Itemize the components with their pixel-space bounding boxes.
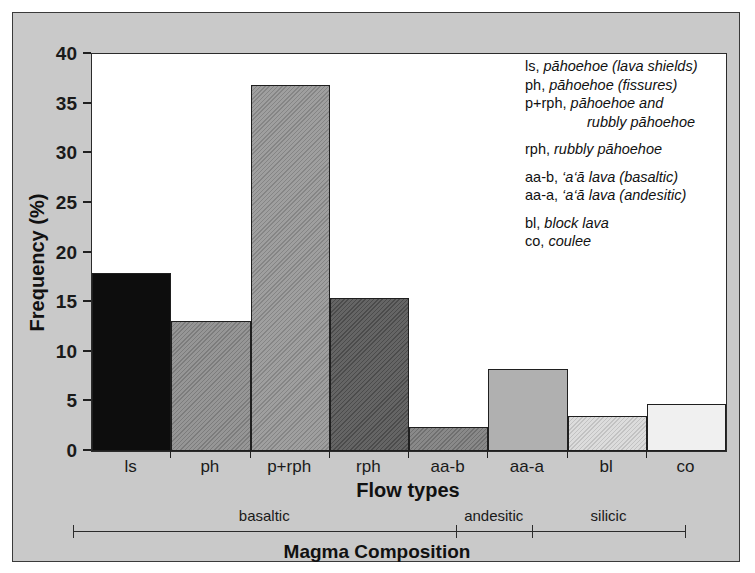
legend-description: pāhoehoe (fissures)	[549, 77, 677, 93]
y-tick-mark-0	[83, 449, 91, 451]
figure-root: Frequency (%) 0510152025303540 ls, pāhoe…	[0, 0, 755, 573]
legend-entry-rph: rph, rubbly pāhoehoe	[525, 140, 721, 159]
y-tick-mark-25	[83, 201, 91, 203]
bar-ph	[171, 321, 250, 451]
bar-aa-a	[488, 369, 567, 451]
magma-bracket-tick-2	[532, 525, 533, 538]
magma-bracket-line	[73, 531, 685, 532]
legend-code: rph,	[525, 141, 550, 157]
y-tick-label-20: 20	[56, 242, 77, 261]
legend-description: coulee	[548, 233, 591, 249]
legend-code: co,	[525, 233, 544, 249]
y-tick-label-15: 15	[56, 292, 77, 311]
y-tick-label-35: 35	[56, 93, 77, 112]
magma-bracket-tick-0	[73, 525, 74, 538]
y-tick-mark-40	[83, 52, 91, 54]
y-axis-title: Frequency (%)	[26, 163, 49, 363]
y-tick-label-10: 10	[56, 341, 77, 360]
x-tick-mark-p+rph	[250, 451, 251, 458]
legend-entry-p+rph: p+rph, pāhoehoe and	[525, 94, 721, 113]
y-tick-mark-5	[83, 399, 91, 401]
bar-rph	[330, 298, 409, 451]
legend-description: rubbly pāhoehoe	[554, 141, 662, 157]
legend-description: block lava	[544, 215, 608, 231]
y-axis: Frequency (%) 0510152025303540	[13, 13, 91, 483]
x-tick-mark-aa-b	[408, 451, 409, 458]
bar-aa-b	[409, 427, 488, 451]
y-tick-label-0: 0	[66, 441, 77, 460]
y-tick-mark-10	[83, 350, 91, 352]
legend-entry-aa-a: aa-a, ‘a‘ā lava (andesitic)	[525, 186, 721, 205]
magma-bracket-tick-3	[685, 525, 686, 538]
magma-composition-axis: Magma Composition basalticandesiticsilic…	[13, 505, 741, 565]
x-tick-label-ph: ph	[170, 457, 249, 477]
bar-ls	[92, 273, 171, 451]
x-tick-mark-rph	[329, 451, 330, 458]
legend-code: ph,	[525, 77, 545, 93]
x-tick-mark-co	[646, 451, 647, 458]
x-tick-mark-bl	[567, 451, 568, 458]
legend-code: aa-b,	[525, 169, 558, 185]
y-tick-mark-15	[83, 300, 91, 302]
magma-segment-silicic: silicic	[532, 507, 685, 524]
bar-bl	[568, 416, 647, 451]
legend: ls, pāhoehoe (lava shields)ph, pāhoehoe …	[525, 57, 721, 251]
legend-description: ‘a‘ā lava (andesitic)	[562, 187, 686, 203]
x-tick-label-aa-a: aa-a	[487, 457, 566, 477]
x-tick-label-bl: bl	[567, 457, 646, 477]
x-tick-label-ls: ls	[91, 457, 170, 477]
y-tick-label-5: 5	[66, 391, 77, 410]
legend-code: ls,	[525, 58, 540, 74]
figure-panel: Frequency (%) 0510152025303540 ls, pāhoe…	[12, 12, 740, 562]
legend-entry-ls: ls, pāhoehoe (lava shields)	[525, 57, 721, 76]
y-tick-label-40: 40	[56, 44, 77, 63]
legend-description: ‘a‘ā lava (basaltic)	[562, 169, 678, 185]
magma-composition-title: Magma Composition	[13, 541, 741, 563]
bar-co	[647, 404, 726, 451]
y-tick-label-30: 30	[56, 143, 77, 162]
x-axis-title: Flow types	[91, 479, 725, 502]
x-tick-mark-ph	[170, 451, 171, 458]
x-tick-label-aa-b: aa-b	[408, 457, 487, 477]
bar-p+rph	[251, 85, 330, 451]
y-tick-mark-35	[83, 102, 91, 104]
y-tick-label-25: 25	[56, 192, 77, 211]
x-tick-label-p+rph: p+rph	[250, 457, 329, 477]
legend-description: pāhoehoe (lava shields)	[544, 58, 698, 74]
x-tick-label-rph: rph	[329, 457, 408, 477]
y-tick-mark-20	[83, 251, 91, 253]
y-tick-mark-30	[83, 151, 91, 153]
legend-description-continued: rubbly pāhoehoe	[525, 113, 721, 132]
magma-bracket-tick-1	[456, 525, 457, 538]
legend-entry-bl: bl, block lava	[525, 214, 721, 233]
legend-code: p+rph,	[525, 95, 567, 111]
legend-code: bl,	[525, 215, 540, 231]
legend-entry-co: co, coulee	[525, 232, 721, 251]
legend-code: aa-a,	[525, 187, 558, 203]
legend-entry-aa-b: aa-b, ‘a‘ā lava (basaltic)	[525, 168, 721, 187]
legend-entry-ph: ph, pāhoehoe (fissures)	[525, 76, 721, 95]
legend-description: pāhoehoe and	[571, 95, 664, 111]
magma-segment-andesitic: andesitic	[456, 507, 533, 524]
magma-segment-basaltic: basaltic	[73, 507, 456, 524]
x-tick-mark-aa-a	[487, 451, 488, 458]
x-tick-label-co: co	[646, 457, 725, 477]
